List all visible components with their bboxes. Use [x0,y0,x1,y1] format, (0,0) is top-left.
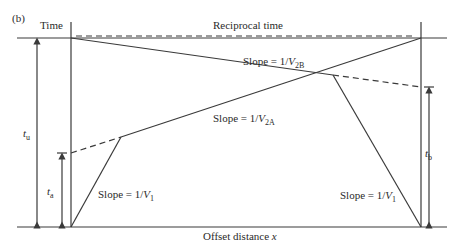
ta-label: ta [47,186,54,200]
v2b-dashed-extension [333,75,421,87]
time-axis-title: Time [40,20,63,31]
v1-direct-line-right [333,75,421,227]
offset-distance-title: Offset distance x [203,231,277,242]
tu-label: tu [23,128,30,142]
slope-v2b-label: Slope = 1/V2B [243,56,304,70]
reciprocal-time-title: Reciprocal time [213,20,283,31]
slope-v2a-label: Slope = 1/V2A [213,113,275,127]
panel-label: (b) [12,13,25,24]
slope-v1-left-label: Slope = 1/V1 [98,189,154,203]
slope-v1-right-label: Slope = 1/V1 [340,190,396,204]
v1-direct-line-left [71,137,121,227]
tb-label: tb [425,148,432,162]
